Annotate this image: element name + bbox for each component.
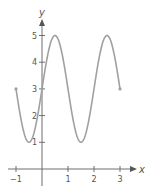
y-tick-label: 1	[32, 138, 37, 147]
y-tick-label: 4	[32, 58, 37, 67]
function-plot: xy −112312345	[0, 0, 146, 193]
x-tick-label: 2	[91, 175, 96, 184]
y-tick-label: 5	[32, 32, 37, 41]
axes: xy	[8, 7, 145, 186]
x-axis-label: x	[138, 164, 145, 175]
x-tick-label: 1	[65, 175, 70, 184]
curve-layer	[14, 36, 121, 143]
y-tick-label: 3	[32, 85, 37, 94]
y-axis-arrow-icon	[39, 19, 45, 26]
x-tick-label: −1	[10, 175, 22, 184]
curve-endpoint-dot	[118, 87, 121, 90]
x-tick-label: 3	[117, 175, 122, 184]
x-axis-arrow-icon	[130, 166, 137, 172]
ticks: −112312345	[10, 32, 122, 185]
y-axis-label: y	[38, 7, 46, 18]
curve-endpoint-dot	[14, 87, 17, 90]
